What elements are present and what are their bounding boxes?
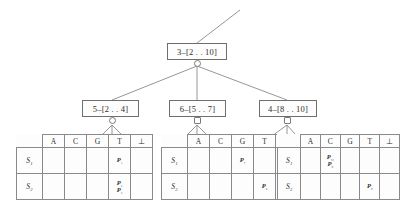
column-header-c: C bbox=[210, 135, 232, 148]
column-header-bottom: ⊥ bbox=[380, 135, 400, 148]
pointer-label: P₇ bbox=[240, 157, 246, 164]
cell-s2-a[interactable] bbox=[188, 174, 210, 200]
leaf-table-1-wrapper: A C G T ⊥ S₁ P₄ S₂ bbox=[16, 134, 153, 200]
table-row: S₁ P₄ bbox=[17, 148, 153, 174]
table-corner-cell bbox=[162, 135, 188, 148]
cell-s2-t[interactable]: P₆ bbox=[254, 174, 276, 200]
cell-s2-a[interactable] bbox=[301, 174, 321, 200]
root-connector-handle bbox=[194, 60, 201, 67]
edge-child2-fan-left bbox=[188, 125, 197, 134]
cell-s2-t[interactable]: P₂P₃ bbox=[109, 174, 131, 200]
column-header-c: C bbox=[65, 135, 87, 148]
child-2-connector-handle bbox=[194, 117, 201, 124]
tree-node-child-2[interactable]: 6–[5 . . 7] bbox=[169, 100, 226, 117]
column-header-bottom: ⊥ bbox=[131, 135, 153, 148]
row-label-s1: S₁ bbox=[17, 148, 43, 174]
tree-node-root[interactable]: 3–[2 . . 10] bbox=[167, 43, 227, 60]
tree-node-child-3-label: 4–[8 . . 10] bbox=[268, 104, 308, 114]
column-header-t: T bbox=[360, 135, 380, 148]
column-header-c: C bbox=[320, 135, 340, 148]
row-label-s2: S₂ bbox=[278, 174, 301, 200]
column-header-t: T bbox=[254, 135, 276, 148]
cell-s1-bottom[interactable] bbox=[380, 148, 400, 174]
edge-child1-fan-right bbox=[112, 125, 121, 134]
cell-s2-c[interactable] bbox=[65, 174, 87, 200]
edge-child3-fan-right bbox=[287, 125, 295, 134]
cell-s1-bottom[interactable] bbox=[131, 148, 153, 174]
pointer-list: P₁₀P₉ bbox=[321, 154, 340, 168]
cell-s2-g[interactable] bbox=[340, 174, 360, 200]
pointer-label: P₆ bbox=[262, 183, 268, 190]
pointer-label: P₉ bbox=[327, 161, 333, 168]
cell-s2-bottom[interactable] bbox=[131, 174, 153, 200]
column-header-g: G bbox=[340, 135, 360, 148]
leaf-table-3: A C G T ⊥ S₁ P₁₀P₉ S₂ bbox=[277, 134, 400, 200]
row-label-s2: S₂ bbox=[17, 174, 43, 200]
pointer-list: P₆ bbox=[254, 183, 275, 190]
edge-root-to-child-3 bbox=[197, 66, 287, 100]
edge-child2-fan-right bbox=[197, 125, 206, 134]
cell-s1-c[interactable] bbox=[65, 148, 87, 174]
cell-s1-c[interactable] bbox=[210, 148, 232, 174]
cell-s1-a[interactable] bbox=[43, 148, 65, 174]
row-label-s1: S₁ bbox=[278, 148, 301, 174]
table-header-row: A C G T ⊥ bbox=[278, 135, 400, 148]
pointer-label: P₃ bbox=[117, 187, 123, 194]
diagram-canvas: 3–[2 . . 10] 5–[2 . . 4] 6–[5 . . 7] 4–[… bbox=[0, 0, 400, 213]
table-row: S₂ P₈ bbox=[278, 174, 400, 200]
leaf-table-3-wrapper: A C G T ⊥ S₁ P₁₀P₉ S₂ bbox=[277, 134, 400, 200]
cell-s1-g[interactable] bbox=[87, 148, 109, 174]
column-header-a: A bbox=[43, 135, 65, 148]
edge-root-to-child-1 bbox=[112, 66, 197, 100]
child-1-connector-handle bbox=[109, 117, 116, 124]
column-header-g: G bbox=[87, 135, 109, 148]
cell-s2-c[interactable] bbox=[210, 174, 232, 200]
leaf-table-1: A C G T ⊥ S₁ P₄ S₂ bbox=[16, 134, 153, 200]
cell-s1-t[interactable]: P₄ bbox=[109, 148, 131, 174]
cell-s1-a[interactable] bbox=[188, 148, 210, 174]
edge-parent-to-root bbox=[197, 10, 240, 43]
edge-child1-fan-left bbox=[103, 125, 112, 134]
cell-s1-c[interactable]: P₁₀P₉ bbox=[320, 148, 340, 174]
column-header-a: A bbox=[301, 135, 321, 148]
pointer-label: P₈ bbox=[367, 183, 373, 190]
cell-s2-c[interactable] bbox=[320, 174, 340, 200]
cell-s2-a[interactable] bbox=[43, 174, 65, 200]
pointer-label: P₄ bbox=[117, 157, 123, 164]
table-row: S₂ P₂P₃ bbox=[17, 174, 153, 200]
row-label-s1: S₁ bbox=[162, 148, 188, 174]
table-row: S₁ P₁₀P₉ bbox=[278, 148, 400, 174]
table-corner-cell bbox=[278, 135, 301, 148]
cell-s2-g[interactable] bbox=[232, 174, 254, 200]
tree-node-child-1-label: 5–[2 . . 4] bbox=[93, 104, 129, 114]
cell-s1-a[interactable] bbox=[301, 148, 321, 174]
row-label-s2: S₂ bbox=[162, 174, 188, 200]
column-header-a: A bbox=[188, 135, 210, 148]
cell-s2-g[interactable] bbox=[87, 174, 109, 200]
tree-node-child-1[interactable]: 5–[2 . . 4] bbox=[82, 100, 139, 117]
cell-s1-g[interactable]: P₇ bbox=[232, 148, 254, 174]
cell-s2-bottom[interactable] bbox=[380, 174, 400, 200]
pointer-list: P₄ bbox=[109, 157, 130, 164]
table-header-row: A C G T ⊥ bbox=[17, 135, 153, 148]
cell-s1-t[interactable] bbox=[360, 148, 380, 174]
cell-s1-t[interactable] bbox=[254, 148, 276, 174]
pointer-list: P₇ bbox=[232, 157, 253, 164]
child-3-connector-handle bbox=[284, 117, 291, 124]
column-header-t: T bbox=[109, 135, 131, 148]
table-corner-cell bbox=[17, 135, 43, 148]
tree-node-child-3[interactable]: 4–[8 . . 10] bbox=[259, 100, 317, 117]
tree-node-child-2-label: 6–[5 . . 7] bbox=[180, 104, 216, 114]
pointer-list: P₂P₃ bbox=[109, 180, 130, 194]
pointer-list: P₈ bbox=[360, 183, 379, 190]
cell-s1-g[interactable] bbox=[340, 148, 360, 174]
column-header-g: G bbox=[232, 135, 254, 148]
tree-node-root-label: 3–[2 . . 10] bbox=[177, 47, 217, 57]
cell-s2-t[interactable]: P₈ bbox=[360, 174, 380, 200]
